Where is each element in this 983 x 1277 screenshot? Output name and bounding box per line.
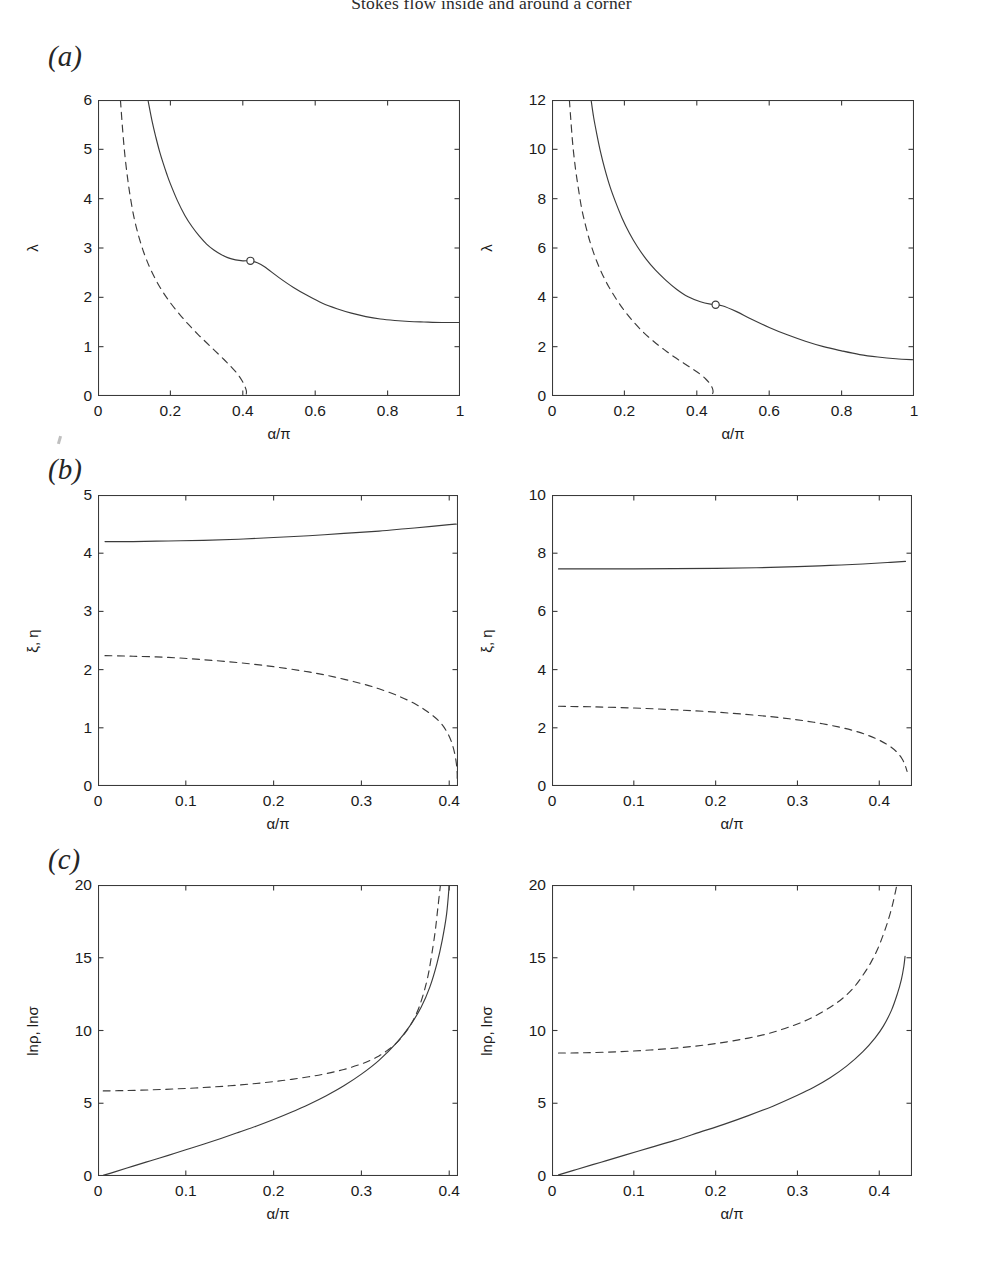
plot-area-b-right	[552, 495, 912, 786]
x-axis-label: α/π	[266, 815, 289, 832]
x-tick-label: 0.3	[787, 792, 809, 810]
x-tick-label: 0.6	[304, 402, 326, 420]
x-tick-label: 1	[910, 402, 919, 420]
y-tick-label: 20	[512, 876, 546, 894]
data-marker	[247, 257, 254, 264]
plot-area-c-right	[552, 885, 912, 1176]
x-tick-label: 0.2	[705, 792, 727, 810]
x-tick-label: 0.8	[831, 402, 853, 420]
y-tick-label: 4	[58, 544, 92, 562]
x-tick-label: 1	[456, 402, 465, 420]
curve-dashed	[120, 100, 246, 396]
data-marker	[712, 301, 719, 308]
scan-speck	[57, 436, 62, 445]
y-tick-label: 10	[512, 140, 546, 158]
x-axis-label: α/π	[721, 425, 744, 442]
x-tick-label: 0	[94, 1182, 103, 1200]
series-group	[569, 100, 914, 395]
y-axis-label: λ	[24, 244, 41, 252]
y-tick-label: 4	[512, 288, 546, 306]
curve-dashed	[569, 100, 713, 395]
axes-frame	[99, 101, 460, 396]
panel-label-b: (b)	[48, 455, 82, 484]
x-tick-label: 0.4	[438, 792, 460, 810]
y-axis-label: lnρ, lnσ	[478, 1006, 495, 1055]
y-tick-label: 1	[58, 719, 92, 737]
y-tick-label: 0	[512, 1167, 546, 1185]
curve-dashed	[559, 706, 908, 771]
y-tick-label: 8	[512, 190, 546, 208]
y-axis-label: ξ, η	[478, 629, 495, 652]
x-tick-label: 0.8	[377, 402, 399, 420]
running-head: Stokes flow inside and around a corner	[0, 0, 983, 14]
x-tick-label: 0.2	[160, 402, 182, 420]
y-tick-label: 5	[512, 1094, 546, 1112]
plot-area-c-left	[98, 885, 458, 1176]
y-tick-label: 12	[512, 91, 546, 109]
x-tick-label: 0.3	[351, 792, 373, 810]
axes-frame	[553, 101, 914, 396]
x-tick-label: 0.1	[623, 1182, 645, 1200]
y-tick-label: 20	[58, 876, 92, 894]
y-tick-label: 0	[512, 387, 546, 405]
curve-dashed	[105, 656, 457, 783]
x-tick-label: 0.1	[623, 792, 645, 810]
y-tick-label: 0	[58, 777, 92, 795]
x-tick-label: 0	[94, 402, 103, 420]
x-axis-label: α/π	[720, 1205, 743, 1222]
x-tick-label: 0	[94, 792, 103, 810]
plot-area-a-left	[98, 100, 460, 396]
y-tick-label: 4	[512, 661, 546, 679]
x-tick-label: 0.4	[868, 792, 890, 810]
y-axis-label: ξ, η	[24, 629, 41, 652]
series-group	[559, 885, 906, 1175]
axes-frame	[553, 496, 912, 786]
y-tick-label: 2	[512, 338, 546, 356]
curve-solid	[103, 885, 449, 1175]
axes-frame	[99, 886, 458, 1176]
x-tick-label: 0.2	[263, 1182, 285, 1200]
x-tick-label: 0	[548, 792, 557, 810]
y-tick-label: 15	[512, 949, 546, 967]
chart-c-right	[552, 885, 912, 1176]
y-tick-label: 5	[58, 1094, 92, 1112]
y-tick-label: 0	[58, 1167, 92, 1185]
figure-page: Stokes flow inside and around a corner (…	[0, 0, 983, 1277]
x-tick-label: 0.2	[263, 792, 285, 810]
y-tick-label: 5	[58, 140, 92, 158]
series-group	[103, 885, 449, 1175]
x-tick-label: 0	[548, 402, 557, 420]
y-tick-label: 10	[58, 1022, 92, 1040]
plot-area-b-left	[98, 495, 458, 786]
x-tick-label: 0.3	[787, 1182, 809, 1200]
x-tick-label: 0.2	[614, 402, 636, 420]
x-tick-label: 0.4	[232, 402, 254, 420]
x-axis-label: α/π	[267, 425, 290, 442]
chart-a-right	[552, 100, 914, 396]
chart-b-left	[98, 495, 458, 786]
y-tick-label: 0	[58, 387, 92, 405]
series-group	[120, 100, 460, 396]
x-tick-label: 0.4	[686, 402, 708, 420]
y-tick-label: 10	[512, 486, 546, 504]
chart-b-right	[552, 495, 912, 786]
axes-frame	[99, 496, 458, 786]
chart-a-left	[98, 100, 460, 396]
y-tick-label: 2	[58, 661, 92, 679]
curve-solid	[559, 561, 906, 569]
y-tick-label: 6	[512, 239, 546, 257]
curve-solid	[559, 956, 906, 1175]
x-tick-label: 0.6	[758, 402, 780, 420]
x-axis-label: α/π	[720, 815, 743, 832]
axes-frame	[553, 886, 912, 1176]
x-axis-label: α/π	[266, 1205, 289, 1222]
y-tick-label: 3	[58, 239, 92, 257]
panel-label-a: (a)	[48, 42, 82, 71]
y-tick-label: 0	[512, 777, 546, 795]
curve-solid	[105, 524, 456, 542]
x-tick-label: 0.4	[438, 1182, 460, 1200]
series-group	[105, 524, 457, 783]
y-tick-label: 1	[58, 338, 92, 356]
y-tick-label: 15	[58, 949, 92, 967]
x-tick-label: 0.1	[175, 792, 197, 810]
